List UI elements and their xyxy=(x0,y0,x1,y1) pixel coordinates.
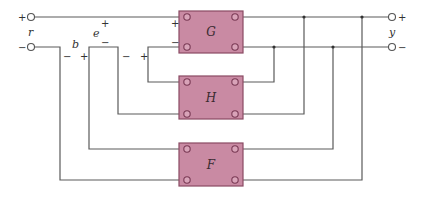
b-minus-sign: − xyxy=(63,51,71,62)
output-plus-sign: + xyxy=(398,12,406,23)
block-f-label: F xyxy=(206,158,216,172)
block-g-label: G xyxy=(206,25,216,39)
block-f: F xyxy=(179,143,243,186)
e-plus-sign: + xyxy=(101,18,109,29)
input-minus-sign: − xyxy=(18,42,26,53)
b-label: b xyxy=(72,38,79,51)
h-loop-minus-sign: − xyxy=(122,51,130,62)
output-terminals: + − y xyxy=(388,12,406,53)
input-plus-sign: + xyxy=(18,12,26,23)
h-loop-plus-sign: + xyxy=(140,51,148,62)
block-h: H xyxy=(179,76,243,119)
g-plus-sign: + xyxy=(171,18,179,29)
input-label: r xyxy=(28,26,34,39)
block-h-label: H xyxy=(205,91,217,105)
block-g: G xyxy=(179,11,243,53)
e-minus-sign: − xyxy=(101,37,109,48)
e-label: e xyxy=(93,27,100,40)
g-minus-sign: − xyxy=(171,37,179,48)
junction-dots xyxy=(272,15,363,48)
block-diagram: G H F + − r + − y − b + + e − xyxy=(0,0,421,201)
diagram-svg: G H F + − r + − y − b + + e − xyxy=(0,0,421,201)
input-terminals: + − r xyxy=(18,12,35,53)
output-minus-sign: − xyxy=(398,42,406,53)
signal-labels: − b + + e − − + + − xyxy=(63,18,179,62)
b-plus-sign: + xyxy=(80,51,88,62)
output-label: y xyxy=(388,26,396,39)
